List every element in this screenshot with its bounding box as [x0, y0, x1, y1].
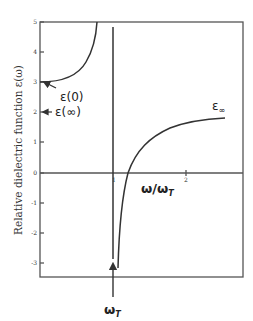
y-tick-1: 1 [33, 138, 37, 145]
x-tick-2: 2 [184, 176, 188, 183]
eps0-arrow [46, 83, 56, 88]
eps0-label: ε(0) [60, 90, 83, 104]
y-tick-0: 0 [33, 169, 37, 176]
x-axis-label: ω/ωT [141, 181, 174, 198]
y-axis-tick-labels: 5 4 3 2 1 0 -1 -2 -3 [31, 18, 37, 266]
y-axis-label: Relative dielectric function ε(ω) [12, 65, 24, 235]
y-tick-5: 5 [33, 18, 37, 25]
dielectric-function-chart: 5 4 3 2 1 0 -1 -2 -3 1 2 Relative dielec… [0, 0, 253, 321]
y-tick-neg1: -1 [31, 199, 37, 206]
y-tick-4: 4 [33, 48, 37, 55]
epsinf-label: ε(∞) [55, 105, 81, 119]
omegaT-label: ωT [104, 302, 121, 319]
y-tick-2: 2 [33, 108, 37, 115]
curve-below-resonance [40, 22, 97, 82]
y-tick-neg2: -2 [31, 229, 37, 236]
y-tick-3: 3 [33, 78, 37, 85]
epsinf-curve-label: ε∞ [212, 99, 225, 115]
y-tick-neg3: -3 [31, 259, 37, 266]
